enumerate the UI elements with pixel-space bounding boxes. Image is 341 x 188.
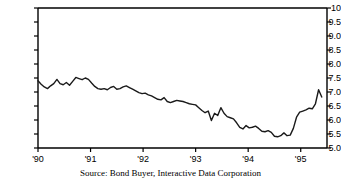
source-note: Source: Bond Buyer, Interactive Data Cor… <box>0 168 341 178</box>
y-tick-label: 8.5 <box>307 46 341 55</box>
y-tick-label: 9.5 <box>307 18 341 27</box>
bond-yield-chart: 109.59.08.58.07.57.06.56.05.55.0 '90'91'… <box>0 0 341 188</box>
x-tick-label: '93 <box>181 155 211 164</box>
y-tick-label: 9.0 <box>307 32 341 41</box>
y-tick-label: 5.5 <box>307 130 341 139</box>
y-tick-label: 7.5 <box>307 74 341 83</box>
data-line-series-0 <box>38 77 322 136</box>
y-tick-label: 5.0 <box>307 144 341 153</box>
y-tick-label: 10 <box>307 4 341 13</box>
axis-frame <box>38 8 327 148</box>
x-tick-label: '92 <box>128 155 158 164</box>
y-tick-label: 7.0 <box>307 88 341 97</box>
x-tick-label: '95 <box>286 155 316 164</box>
y-tick-label: 6.5 <box>307 102 341 111</box>
y-tick-label: 8.0 <box>307 60 341 69</box>
x-tick-label: '94 <box>233 155 263 164</box>
x-tick-label: '90 <box>23 155 53 164</box>
y-tick-label: 6.0 <box>307 116 341 125</box>
x-tick-label: '91 <box>76 155 106 164</box>
